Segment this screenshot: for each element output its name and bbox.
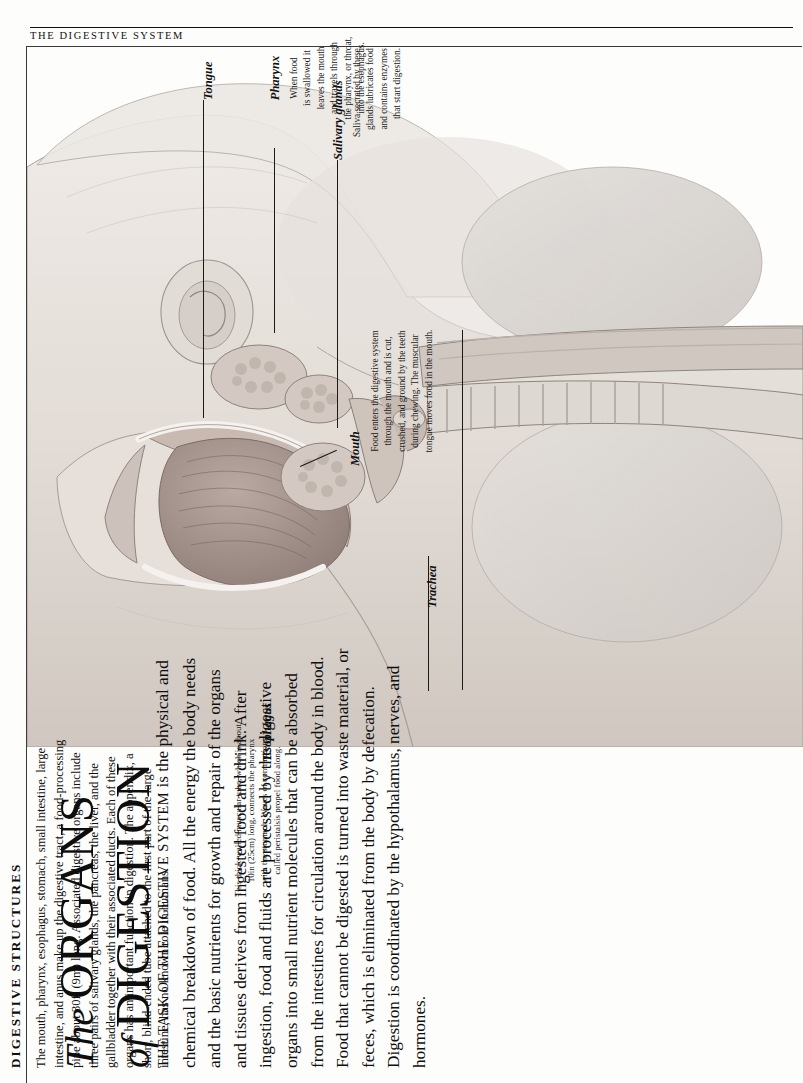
callout-tongue-label: Tongue [198,62,216,100]
intro-paragraph: THE TASK OF THE DIGESTIVE SYSTEM is the … [150,648,433,1068]
callout-label-text: Pharynx [268,8,283,148]
callout-label-text: Tongue [201,62,215,100]
leader-line-esophagus [462,330,463,690]
intro-paragraph-block: THE TASK OF THE DIGESTIVE SYSTEM is the … [150,648,433,1068]
callout-trachea-label: Trachea [422,565,440,608]
book-page: THE DIGESTIVE SYSTEM [0,0,803,1083]
leader-line-salivary [337,160,338,336]
section-heading: DIGESTIVE STRUCTURES [8,738,24,1068]
running-head: THE DIGESTIVE SYSTEM [30,30,730,41]
callout-mouth: Mouth Food enters the digestive system t… [348,316,436,466]
digestive-structures-section: DIGESTIVE STRUCTURES The mouth, pharynx,… [8,738,174,1068]
callout-label-text: Trachea [425,565,439,608]
callout-label-text: Salivary glands [331,48,346,160]
callout-caption-text: Food enters the digestive system through… [369,316,436,466]
section-paragraph: The mouth, pharynx, esophagus, stomach, … [33,738,174,1068]
intro-body-text: is the physical and chemical breakdown o… [153,648,429,1068]
leader-line-pharynx [274,148,275,333]
callout-salivary-glands: Salivary glands Saliva secreted by these… [331,48,405,160]
callout-caption-text: Saliva secreted by these glands lubricat… [351,48,405,160]
running-head-rule [30,27,793,28]
leader-line-tongue [203,100,204,418]
leader-line-salivary-2 [337,336,338,428]
callout-label-text: Mouth [348,316,363,466]
